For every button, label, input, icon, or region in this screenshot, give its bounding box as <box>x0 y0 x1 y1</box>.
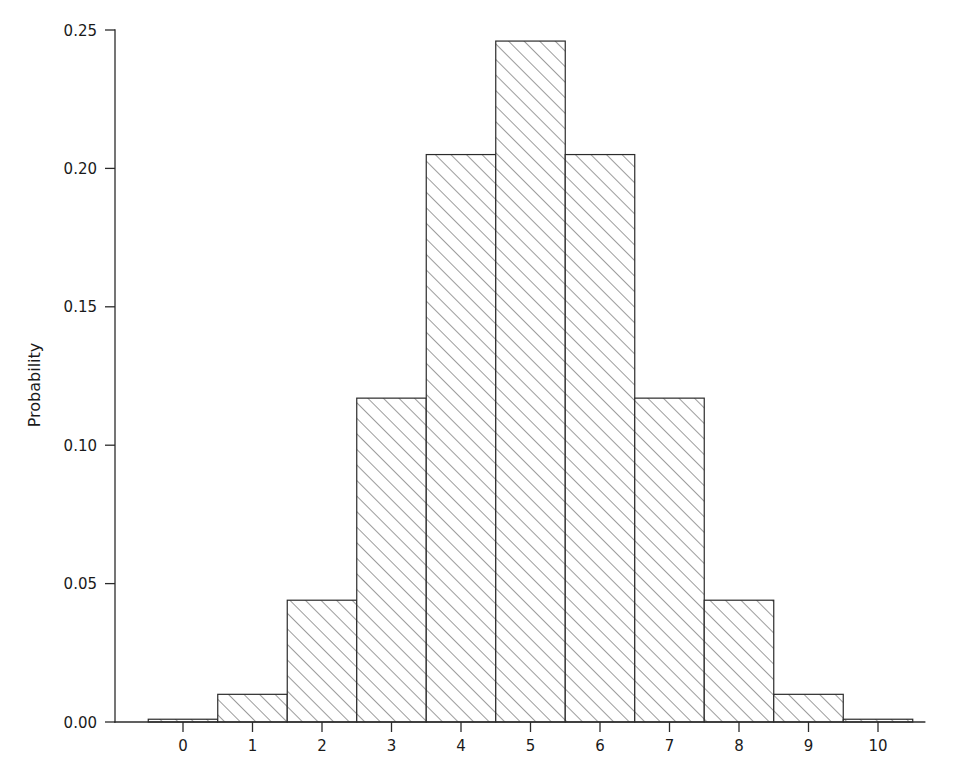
y-tick-label: 0.20 <box>64 160 97 178</box>
x-tick-label: 3 <box>387 737 397 755</box>
y-tick-label: 0.15 <box>64 298 97 316</box>
x-tick-label: 4 <box>456 737 466 755</box>
x-tick-label: 7 <box>665 737 675 755</box>
histogram-bar <box>635 398 705 722</box>
x-tick-label: 2 <box>317 737 327 755</box>
y-tick-label: 0.05 <box>64 575 97 593</box>
histogram-bar <box>496 41 566 722</box>
y-axis-title: Probability <box>25 343 44 428</box>
x-tick-label: 0 <box>178 737 188 755</box>
x-tick-label: 6 <box>595 737 605 755</box>
histogram-bar <box>704 600 774 722</box>
x-tick-label: 10 <box>868 737 887 755</box>
x-tick-label: 1 <box>248 737 258 755</box>
x-tick-label: 9 <box>804 737 814 755</box>
histogram-bar <box>565 155 635 722</box>
probability-histogram-plot: 0.000.050.100.150.200.25 012345678910 Pr… <box>0 0 975 776</box>
chart-figure: 0.000.050.100.150.200.25 012345678910 Pr… <box>0 0 975 776</box>
histogram-bar <box>426 155 496 722</box>
histogram-bar <box>287 600 357 722</box>
y-tick-label: 0.00 <box>64 714 97 732</box>
x-tick-label: 8 <box>734 737 744 755</box>
x-tick-label: 5 <box>526 737 536 755</box>
histogram-bar <box>774 694 844 722</box>
y-tick-label: 0.10 <box>64 437 97 455</box>
histogram-bar <box>357 398 427 722</box>
histogram-bar <box>218 694 288 722</box>
y-tick-label: 0.25 <box>64 22 97 40</box>
